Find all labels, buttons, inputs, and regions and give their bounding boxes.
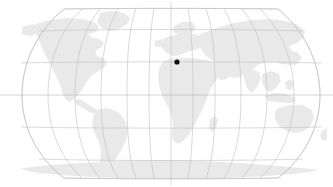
land-central-america [74,99,97,114]
landmass-layer [6,11,330,182]
land-new-zealand [320,128,330,141]
land-southeast-asia [262,71,281,92]
world-map-svg [0,0,333,187]
land-greenland [97,11,130,31]
world-map-widget[interactable] [0,0,333,187]
land-india [243,70,261,93]
land-madagascar [209,116,218,132]
land-indonesia [264,93,296,103]
location-marker-dot[interactable] [174,59,179,64]
land-australia [275,105,314,133]
land-philippines [285,79,294,90]
meridian-60w [127,9,136,178]
land-scandinavia [172,22,196,36]
meridian-30w [149,9,154,178]
